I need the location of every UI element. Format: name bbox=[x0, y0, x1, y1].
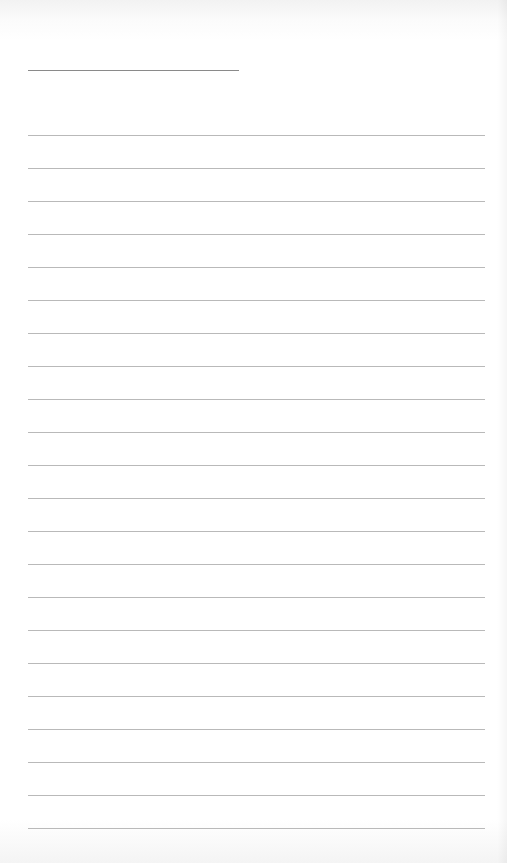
ruled-line bbox=[28, 630, 485, 631]
ruled-line bbox=[28, 762, 485, 763]
title-line bbox=[28, 70, 239, 71]
ruled-line bbox=[28, 663, 485, 664]
ruled-line bbox=[28, 201, 485, 202]
ruled-line bbox=[28, 234, 485, 235]
ruled-line bbox=[28, 828, 485, 829]
ruled-line bbox=[28, 498, 485, 499]
ruled-line bbox=[28, 729, 485, 730]
ruled-line bbox=[28, 135, 485, 136]
ruled-line bbox=[28, 267, 485, 268]
ruled-line bbox=[28, 366, 485, 367]
ruled-line bbox=[28, 300, 485, 301]
ruled-line bbox=[28, 432, 485, 433]
ruled-line bbox=[28, 564, 485, 565]
ruled-line bbox=[28, 333, 485, 334]
ruled-line bbox=[28, 795, 485, 796]
ruled-line bbox=[28, 168, 485, 169]
ruled-line bbox=[28, 399, 485, 400]
lined-paper-page bbox=[0, 0, 507, 863]
ruled-line bbox=[28, 465, 485, 466]
ruled-line bbox=[28, 597, 485, 598]
ruled-line bbox=[28, 531, 485, 532]
ruled-line bbox=[28, 696, 485, 697]
